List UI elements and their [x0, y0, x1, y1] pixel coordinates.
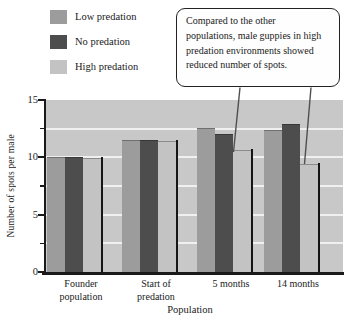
guppy-spots-bar-chart-figure: Low predation No predation High predatio…: [0, 0, 346, 325]
plot-area: [45, 100, 343, 272]
legend-item-high-predation: High predation: [50, 59, 138, 74]
bar: [122, 140, 140, 272]
annotation-callout: Compared to the other populations, male …: [176, 8, 340, 87]
y-tick: [38, 271, 44, 273]
legend-label: Low predation: [75, 11, 137, 22]
y-minor-tick: [40, 128, 44, 130]
legend-swatch-high-predation: [50, 60, 67, 74]
y-axis-title: Number of spots per male: [4, 100, 18, 272]
callout-text-line: predation environments showed: [186, 44, 334, 59]
legend-label: No predation: [75, 36, 130, 47]
category-label: 5 months: [199, 278, 263, 291]
x-axis-title: Population: [140, 304, 240, 315]
callout-text-line: populations, male guppies in high: [186, 29, 334, 44]
y-minor-tick: [40, 185, 44, 187]
bar: [233, 150, 251, 272]
legend-swatch-no-predation: [50, 35, 67, 49]
callout-text-line: Compared to the other: [186, 14, 334, 29]
chart-legend: Low predation No predation High predatio…: [50, 9, 138, 84]
y-tick: [38, 156, 44, 158]
bar: [215, 134, 233, 272]
bar: [282, 124, 300, 272]
bar: [197, 128, 215, 272]
y-minor-tick: [40, 243, 44, 245]
y-tick: [38, 214, 44, 216]
bar: [140, 140, 158, 272]
bar: [83, 158, 101, 272]
category-label: 14 months: [266, 278, 330, 291]
y-tick: [38, 99, 44, 101]
bar-shadow: [101, 157, 103, 272]
bar: [264, 130, 282, 272]
bar-shadow: [318, 163, 320, 272]
legend-item-no-predation: No predation: [50, 34, 138, 49]
bar: [300, 164, 318, 272]
bar: [65, 157, 83, 272]
callout-text-line: reduced number of spots.: [186, 58, 334, 73]
legend-label: High predation: [75, 61, 138, 72]
legend-swatch-low-predation: [50, 10, 67, 24]
bar: [47, 157, 65, 272]
category-label: Founder population: [49, 278, 113, 303]
bar: [158, 141, 176, 272]
bar-shadow: [176, 140, 178, 272]
legend-item-low-predation: Low predation: [50, 9, 138, 24]
y-axis-line: [44, 99, 46, 275]
bar-shadow: [251, 149, 253, 272]
category-label: Start of predation: [124, 278, 188, 303]
x-axis-line: [42, 272, 344, 275]
